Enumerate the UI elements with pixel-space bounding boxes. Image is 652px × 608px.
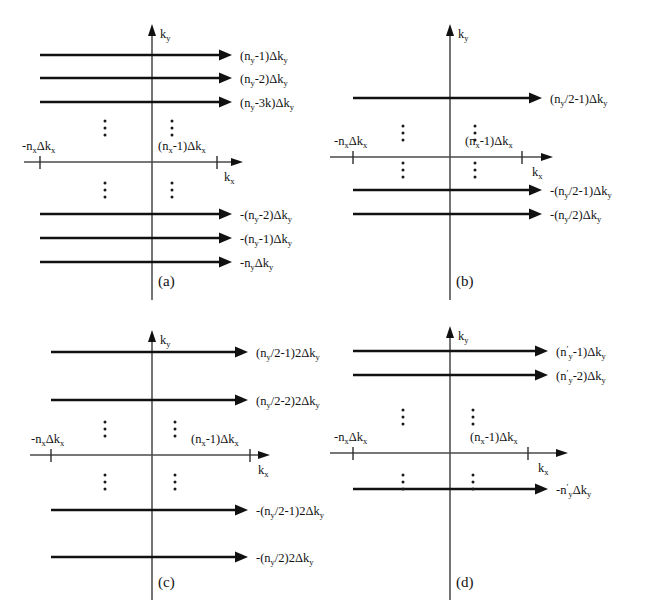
ray-arrowhead <box>219 73 232 84</box>
ellipsis-dot <box>472 409 475 412</box>
panel-caption-c: (c) <box>158 574 175 591</box>
ellipsis-dot <box>104 127 107 130</box>
ray-arrowhead <box>529 185 542 196</box>
x-right-tick-label: (nx-1)Δkx <box>191 432 240 448</box>
x-right-tick-label: (nx-1)Δkx <box>465 134 514 150</box>
ellipsis-dot <box>104 421 107 424</box>
ray-label: -(ny/2-1)Δky <box>550 184 612 200</box>
ray-arrowhead <box>529 209 542 220</box>
ellipsis-dot <box>174 481 177 484</box>
panel-b: ky kx -nxΔkx (nx-1)Δkx (ny/2-1)Δky-(ny/2… <box>330 0 652 310</box>
ellipsis-group-a <box>104 120 174 199</box>
kx-axis-label: kx <box>258 463 269 479</box>
rays-group-d: (n′y-1)Δky(n′y-2)Δky-n′yΔky <box>353 344 607 499</box>
panel-c-svg: ky kx -nxΔkx (nx-1)Δkx (ny/2-1)2Δky(ny/2… <box>0 310 330 608</box>
ky-axis-label: ky <box>458 27 469 43</box>
ellipsis-group-b <box>402 125 477 179</box>
ellipsis-dot <box>474 125 477 128</box>
ellipsis-dot <box>104 435 107 438</box>
rays-group-c: (ny/2-1)2Δky(ny/2-2)2Δky-(ny/2-1)2Δky-(n… <box>51 346 325 567</box>
ray-label: (ny/2-1)Δky <box>550 92 608 108</box>
ray-arrowhead <box>535 484 548 495</box>
ellipsis-dot <box>474 162 477 165</box>
panel-caption-b: (b) <box>456 273 474 290</box>
y-axis-arrowhead <box>446 24 454 36</box>
ellipsis-dot <box>104 481 107 484</box>
ray-arrowhead <box>535 346 548 357</box>
ellipsis-dot <box>104 189 107 192</box>
ellipsis-dot <box>104 428 107 431</box>
kx-axis-label: kx <box>538 461 549 477</box>
ellipsis-dot <box>402 423 405 426</box>
axes-d <box>330 326 568 600</box>
y-axis-arrowhead <box>148 24 156 36</box>
panel-b-svg: ky kx -nxΔkx (nx-1)Δkx (ny/2-1)Δky-(ny/2… <box>330 0 652 310</box>
ellipsis-dot <box>174 488 177 491</box>
x-left-tick-label: -nxΔkx <box>22 139 56 155</box>
ellipsis-dot <box>402 176 405 179</box>
ray-label: (ny-1)Δky <box>240 49 289 65</box>
ray-arrowhead <box>219 209 232 220</box>
ellipsis-group-d <box>402 409 475 491</box>
ray-arrowhead <box>219 97 232 108</box>
ray-arrowhead <box>219 257 232 268</box>
y-axis-arrowhead <box>446 326 454 338</box>
ray-label: -(ny-2)Δky <box>240 208 293 224</box>
axes-a <box>24 24 243 300</box>
ray-arrowhead <box>219 233 232 244</box>
ellipsis-dot <box>402 481 405 484</box>
ray-label: (ny/2-1)2Δky <box>256 346 321 362</box>
panel-a: ky kx -nxΔkx (nx-1)Δkx (ny-1)Δky(ny-2)Δk… <box>0 0 330 310</box>
ray-label: -(ny/2-1)2Δky <box>256 504 325 520</box>
ellipsis-dot <box>104 474 107 477</box>
ellipsis-dot <box>472 474 475 477</box>
x-axis-arrowhead <box>541 153 553 161</box>
ellipsis-dot <box>104 120 107 123</box>
ray-label: (n′y-1)Δky <box>556 344 607 361</box>
figure-canvas: ky kx -nxΔkx (nx-1)Δkx (ny-1)Δky(ny-2)Δk… <box>0 0 652 608</box>
ellipsis-dot <box>472 423 475 426</box>
ray-label: (n′y-2)Δky <box>556 368 607 385</box>
ellipsis-dot <box>174 474 177 477</box>
ellipsis-dot <box>171 127 174 130</box>
ellipsis-dot <box>472 416 475 419</box>
ellipsis-dot <box>174 428 177 431</box>
x-left-tick-label: -nxΔkx <box>334 430 368 446</box>
ray-label: (ny/2-2)2Δky <box>256 394 321 410</box>
ellipsis-dot <box>171 134 174 137</box>
ellipsis-dot <box>104 196 107 199</box>
axes-c <box>30 330 270 600</box>
x-right-tick-label: (nx-1)Δkx <box>158 139 207 155</box>
ellipsis-dot <box>402 139 405 142</box>
panel-caption-d: (d) <box>456 574 474 591</box>
ray-label: -(ny/2)2Δky <box>256 551 314 567</box>
ray-label: -(ny-1)Δky <box>240 232 293 248</box>
ellipsis-dot <box>474 132 477 135</box>
panel-c: ky kx -nxΔkx (nx-1)Δkx (ny/2-1)2Δky(ny/2… <box>0 310 330 608</box>
ray-arrowhead <box>219 50 232 61</box>
kx-axis-label: kx <box>532 165 543 181</box>
panel-d-svg: ky kx -nxΔkx (nx-1)Δkx (n′y-1)Δky(n′y-2)… <box>330 310 652 608</box>
ellipsis-dot <box>472 481 475 484</box>
ellipsis-dot <box>474 139 477 142</box>
ellipsis-dot <box>171 182 174 185</box>
ellipsis-dot <box>104 182 107 185</box>
ellipsis-dot <box>171 120 174 123</box>
ellipsis-dot <box>171 196 174 199</box>
panel-caption-a: (a) <box>158 273 175 290</box>
ellipsis-dot <box>402 169 405 172</box>
x-right-tick-label: (nx-1)Δkx <box>470 430 519 446</box>
ellipsis-dot <box>402 125 405 128</box>
ray-label: -(ny/2)Δky <box>550 208 602 224</box>
x-axis-arrowhead <box>556 449 568 457</box>
ray-arrowhead <box>235 505 248 516</box>
rays-group-a: (ny-1)Δky(ny-2)Δky(ny-3k)Δky-(ny-2)Δky-(… <box>40 49 295 272</box>
ellipsis-dot <box>402 132 405 135</box>
ray-label: -nyΔky <box>240 256 274 272</box>
ray-label: (ny-2)Δky <box>240 72 289 88</box>
ellipsis-dot <box>174 421 177 424</box>
ray-label: (ny-3k)Δky <box>240 96 295 112</box>
ray-arrowhead <box>535 370 548 381</box>
ellipsis-dot <box>402 409 405 412</box>
ellipsis-dot <box>474 176 477 179</box>
